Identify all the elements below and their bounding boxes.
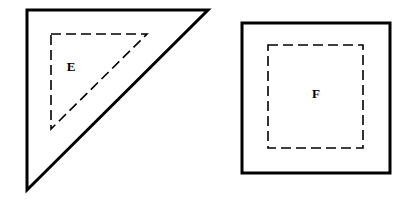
figure-canvas: E F	[0, 0, 416, 199]
shape-f-label: F	[312, 86, 320, 101]
shape-e-inner-dashed-triangle	[51, 34, 147, 129]
shape-e-label: E	[67, 59, 76, 74]
geometry-diagram: E F	[0, 0, 416, 199]
shape-e-outer-triangle	[27, 10, 208, 190]
